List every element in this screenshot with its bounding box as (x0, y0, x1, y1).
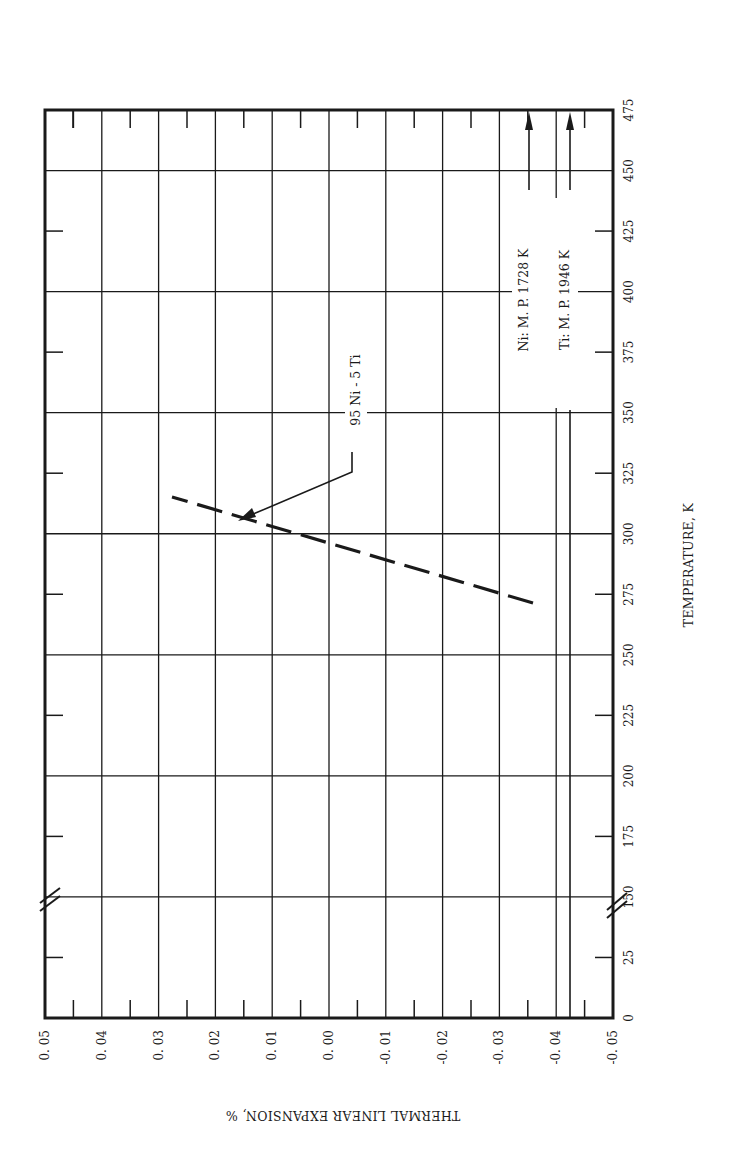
leader-arrow-icon (244, 452, 352, 518)
temperature-tick-label: 250 (622, 643, 636, 666)
temperature-tick-label: 475 (622, 99, 636, 122)
expansion-tick-label: 0. 04 (95, 1030, 109, 1061)
expansion-tick-label: -0. 03 (492, 1030, 506, 1065)
temperature-tick-label: 450 (622, 159, 636, 182)
temperature-tick-label: 200 (622, 764, 636, 787)
ti-melting-point-label: Ti: M. P. 1946 K (557, 249, 572, 350)
chart: 0. 050. 040. 030. 020. 010. 00-0. 01-0. … (0, 0, 731, 1168)
x-axis-title: TEMPERATURE, K (681, 502, 696, 627)
y-axis-title: THERMAL LINEAR EXPANSION, % (226, 1108, 461, 1123)
temperature-tick-label: 175 (622, 825, 636, 848)
temperature-tick-label: 25 (622, 950, 636, 965)
expansion-tick-label: 0. 01 (265, 1030, 279, 1061)
expansion-tick-label: -0. 02 (436, 1030, 450, 1065)
series-95ni-5ti-line (172, 497, 533, 603)
temperature-tick-labels: 0251501752002252502753003253503754004254… (622, 99, 636, 1022)
temperature-tick-label: 375 (622, 341, 636, 364)
ni-mp-arrowhead-icon (525, 112, 533, 130)
temperature-tick-label: 325 (622, 462, 636, 485)
expansion-tick-labels: 0. 050. 040. 030. 020. 010. 00-0. 01-0. … (38, 1030, 620, 1065)
expansion-tick-label: 0. 00 (322, 1030, 336, 1061)
axis-break-left-icon (40, 888, 60, 911)
expansion-tick-label: -0. 01 (379, 1030, 393, 1065)
temperature-tick-label: 150 (622, 885, 636, 908)
temperature-tick-label: 0 (622, 1014, 636, 1022)
temperature-tick-label: 350 (622, 401, 636, 424)
ni-melting-point-label: Ni: M. P. 1728 K (516, 248, 531, 351)
expansion-tick-label: 0. 05 (38, 1030, 52, 1061)
temperature-tick-label: 425 (622, 220, 636, 243)
ti-mp-arrowhead-icon (566, 112, 574, 130)
expansion-tick-label: -0. 04 (549, 1030, 563, 1065)
temperature-tick-label: 400 (622, 280, 636, 303)
temperature-tick-label: 225 (622, 704, 636, 727)
curve-label: 95 Ni - 5 Ti (348, 354, 363, 425)
expansion-tick-label: 0. 02 (208, 1030, 222, 1061)
expansion-tick-label: 0. 03 (152, 1030, 166, 1061)
temperature-tick-label: 275 (622, 583, 636, 606)
temperature-tick-label: 300 (622, 522, 636, 545)
expansion-tick-label: -0. 05 (606, 1030, 620, 1065)
